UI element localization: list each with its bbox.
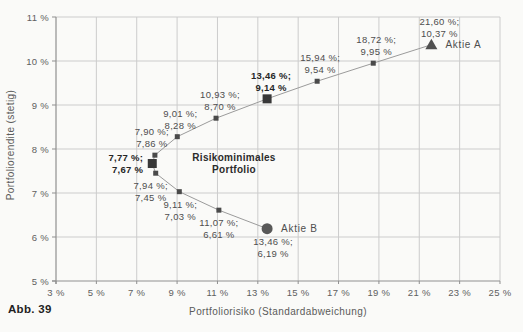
y-tick-label: 9 % (32, 100, 50, 111)
annotation-label: Risikominimales (192, 152, 276, 163)
data-point-label: 21,60 %; (419, 16, 459, 27)
data-point-marker-circle (262, 223, 273, 234)
data-point-label: 6,19 % (257, 248, 289, 259)
data-point-marker-triangle (425, 39, 437, 50)
data-point-label: 8,70 % (204, 101, 236, 112)
portfolio-risk-return-chart: 3 %5 %7 %9 %11 %13 %15 %17 %19 %21 %23 %… (0, 0, 523, 332)
data-point-label: 7,03 % (165, 211, 197, 222)
x-tick-label: 21 % (408, 287, 431, 298)
data-point-label: 7,90 %; (135, 126, 169, 137)
data-point-marker (175, 134, 180, 139)
data-point-marker (153, 171, 158, 176)
x-axis-title: Portfoliorisiko (Standardabweichung) (56, 306, 500, 317)
data-point-marker (214, 116, 219, 121)
data-point-label: 9,54 % (304, 64, 336, 75)
data-point-label: 11,07 %; (199, 217, 238, 228)
figure-page: 3 %5 %7 %9 %11 %13 %15 %17 %19 %21 %23 %… (0, 0, 523, 332)
data-point-label: 9,95 % (361, 46, 393, 57)
data-point-label: 7,77 %; (108, 152, 143, 163)
x-tick-label: 25 % (489, 287, 512, 298)
data-point-label: 10,93 %; (200, 89, 240, 100)
point-name-label: Aktie A (445, 39, 481, 50)
point-name-label: Aktie B (281, 223, 318, 234)
figure-caption: Abb. 39 (8, 303, 52, 315)
data-point-label: 15,94 %; (300, 52, 340, 63)
data-point-label: 10,37 % (421, 28, 458, 39)
data-point-label: 9,14 % (255, 82, 287, 93)
y-tick-label: 6 % (32, 232, 50, 243)
data-point-marker-large (263, 94, 272, 103)
y-tick-label: 8 % (32, 144, 50, 155)
data-point-label: 7,67 % (112, 164, 144, 175)
data-point-marker-large (148, 159, 157, 168)
y-axis-title: Portfoliorendite (stetig) (5, 90, 16, 201)
y-tick-label: 7 % (32, 188, 50, 199)
x-tick-label: 17 % (327, 287, 350, 298)
data-point-label: 13,46 %; (253, 236, 293, 247)
x-tick-label: 3 % (47, 287, 65, 298)
data-point-marker (216, 208, 221, 213)
data-point-marker (315, 79, 320, 84)
data-point-label: 8,28 % (165, 120, 197, 131)
data-point-label: 7,86 % (136, 138, 168, 149)
y-tick-label: 11 % (27, 12, 49, 23)
data-point-label: 7,45 % (135, 192, 167, 203)
y-tick-label: 10 % (26, 56, 49, 67)
y-tick-label: 5 % (32, 276, 50, 287)
data-point-label: 13,46 %; (251, 70, 291, 81)
x-tick-label: 15 % (287, 287, 310, 298)
x-tick-label: 9 % (168, 287, 186, 298)
data-point-label: 9,11 %; (163, 199, 197, 210)
annotation-label: Portfolio (212, 164, 256, 175)
x-tick-label: 13 % (246, 287, 269, 298)
x-tick-label: 5 % (88, 287, 106, 298)
data-point-marker (152, 153, 157, 158)
data-point-label: 9,01 %; (163, 108, 197, 119)
x-tick-label: 11 % (206, 287, 228, 298)
x-tick-label: 19 % (367, 287, 390, 298)
x-tick-label: 7 % (128, 287, 146, 298)
data-point-label: 7,94 %; (134, 180, 168, 191)
data-point-label: 6,61 % (203, 229, 235, 240)
data-point-marker (371, 61, 376, 66)
data-point-label: 18,72 %; (356, 34, 396, 45)
data-point-marker (177, 189, 182, 194)
x-tick-label: 23 % (448, 287, 471, 298)
